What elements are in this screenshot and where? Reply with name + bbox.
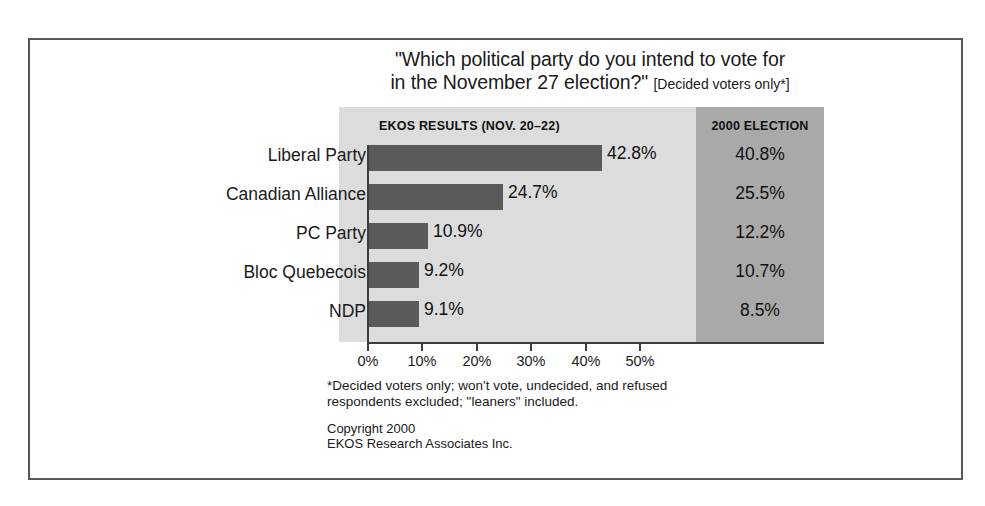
bar-ndp: [369, 301, 419, 327]
bar-value-bloc-quebecois: 9.2%: [424, 260, 464, 281]
x-axis-tick: [367, 344, 369, 351]
election-value-liberal-party: 40.8%: [696, 144, 824, 165]
x-axis-tick: [476, 344, 478, 351]
footnotes: *Decided voters only; won't vote, undeci…: [327, 378, 787, 451]
chart-row: 10.9% 12.2%: [339, 223, 824, 249]
election-value-ndp: 8.5%: [696, 300, 824, 321]
x-axis: 0% 10% 20% 30% 40% 50%: [339, 342, 824, 382]
chart-row: 42.8% 40.8%: [339, 145, 824, 171]
category-label-canadian-alliance: Canadian Alliance: [140, 184, 366, 205]
chart-title-line-1: "Which political party do you intend to …: [340, 48, 840, 71]
plot-area: EKOS RESULTS (NOV. 20–22) 2000 ELECTION …: [339, 107, 824, 342]
copyright-line-1: Copyright 2000: [327, 421, 787, 436]
bar-value-pc-party: 10.9%: [433, 221, 483, 242]
x-axis-tick: [530, 344, 532, 351]
election-value-pc-party: 12.2%: [696, 222, 824, 243]
election-value-bloc-quebecois: 10.7%: [696, 261, 824, 282]
chart-title-line-2-text: in the November 27 election?": [390, 71, 648, 93]
chart-frame: "Which political party do you intend to …: [28, 38, 963, 480]
election-value-canadian-alliance: 25.5%: [696, 183, 824, 204]
chart-title-line-2: in the November 27 election?" [Decided v…: [340, 71, 840, 96]
x-axis-tick: [639, 344, 641, 351]
x-axis-tick-label: 40%: [571, 353, 600, 369]
x-axis-tick-label: 50%: [625, 353, 654, 369]
bar-value-liberal-party: 42.8%: [607, 143, 657, 164]
chart-row: 24.7% 25.5%: [339, 184, 824, 210]
x-axis-tick-label: 30%: [516, 353, 545, 369]
column-header-results: EKOS RESULTS (NOV. 20–22): [379, 119, 560, 133]
x-axis-tick: [421, 344, 423, 351]
bar-pc-party: [369, 223, 428, 249]
bar-value-ndp: 9.1%: [424, 299, 464, 320]
category-label-bloc-quebecois: Bloc Quebecois: [140, 262, 366, 283]
bar-liberal-party: [369, 145, 602, 171]
column-header-election: 2000 ELECTION: [696, 119, 824, 133]
category-label-liberal-party: Liberal Party: [140, 145, 366, 166]
x-axis-tick-label: 10%: [407, 353, 436, 369]
footnote-decided-voters: *Decided voters only; won't vote, undeci…: [327, 378, 787, 410]
x-axis-line: [367, 342, 824, 344]
bar-bloc-quebecois: [369, 262, 419, 288]
category-label-ndp: NDP: [140, 301, 366, 322]
bar-canadian-alliance: [369, 184, 503, 210]
category-label-pc-party: PC Party: [140, 223, 366, 244]
footnote-line-1: *Decided voters only; won't vote, undeci…: [327, 378, 787, 394]
copyright-block: Copyright 2000 EKOS Research Associates …: [327, 421, 787, 451]
copyright-line-2: EKOS Research Associates Inc.: [327, 436, 787, 451]
footnote-line-2: respondents excluded; "leaners" included…: [327, 394, 787, 410]
bar-value-canadian-alliance: 24.7%: [508, 182, 558, 203]
x-axis-tick-label: 20%: [462, 353, 491, 369]
chart-row: 9.1% 8.5%: [339, 301, 824, 327]
chart-row: 9.2% 10.7%: [339, 262, 824, 288]
chart-title-note: [Decided voters only*]: [653, 76, 789, 92]
x-axis-tick-label: 0%: [358, 353, 379, 369]
chart-title: "Which political party do you intend to …: [340, 48, 840, 96]
x-axis-tick: [585, 344, 587, 351]
